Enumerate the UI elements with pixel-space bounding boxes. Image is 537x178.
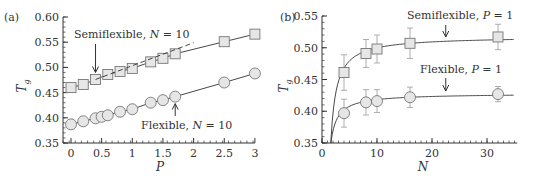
y-tick-label: 0.55 xyxy=(294,10,319,23)
x-tick-label: 1.5 xyxy=(154,147,172,160)
circle-marker xyxy=(339,108,350,119)
circle-marker xyxy=(361,97,372,108)
square-marker xyxy=(127,63,137,73)
y-tick-label: 0.50 xyxy=(294,42,319,55)
x-tick-label: 30 xyxy=(480,147,494,160)
circle-marker xyxy=(170,91,181,102)
y-tick-label: 0.55 xyxy=(35,36,60,49)
square-marker xyxy=(170,49,180,59)
x-tick-label: 2.5 xyxy=(216,147,234,160)
x-tick-label: 3 xyxy=(251,147,258,160)
square-marker xyxy=(250,29,260,39)
x-tick-label: 0 xyxy=(68,147,75,160)
x-tick-label: 0.5 xyxy=(93,147,111,160)
annotation-flexible-n10: Flexible, N = 10 xyxy=(141,119,232,132)
x-tick-label: 20 xyxy=(425,147,439,160)
annotation-flexible-p1: Flexible, P = 1 xyxy=(420,63,502,76)
x-tick-label: 1 xyxy=(129,147,136,160)
circle-marker xyxy=(66,119,77,130)
y-tick-label: 0.60 xyxy=(35,11,60,24)
square-marker xyxy=(372,44,382,54)
circle-marker xyxy=(127,104,138,115)
circle-marker xyxy=(78,116,89,127)
circle-marker xyxy=(157,95,168,106)
square-marker xyxy=(493,32,503,42)
square-marker xyxy=(103,69,113,79)
circle-marker xyxy=(493,89,504,100)
axes-frame xyxy=(322,16,517,143)
circle-marker xyxy=(115,106,126,117)
circle-marker xyxy=(145,97,156,108)
square-marker xyxy=(115,66,125,76)
svg-text:Tg: Tg xyxy=(15,79,31,92)
square-marker xyxy=(361,48,371,58)
circle-marker xyxy=(372,96,383,107)
y-tick-label: 0.40 xyxy=(35,112,60,125)
x-tick-label: 0 xyxy=(319,147,326,160)
square-marker xyxy=(339,68,349,78)
panel-a-x-axis-label: P xyxy=(155,160,165,174)
panel-a-label: (a) xyxy=(4,11,19,24)
circle-marker xyxy=(102,110,113,121)
panel-a-y-axis-label: Tg xyxy=(15,79,31,92)
y-tick-label: 0.45 xyxy=(294,74,319,87)
square-marker xyxy=(158,53,168,63)
square-marker xyxy=(78,80,88,90)
panel-b-y-axis-label: Tg xyxy=(277,79,293,92)
x-tick-label: 10 xyxy=(370,147,384,160)
circle-marker xyxy=(219,77,230,88)
y-tick-label: 0.40 xyxy=(294,105,319,118)
y-tick-label: 0.45 xyxy=(35,87,60,100)
circle-marker xyxy=(249,68,260,79)
panel-b-label: (b) xyxy=(280,11,296,24)
y-tick-label: 0.50 xyxy=(35,61,60,74)
fit-curve xyxy=(331,95,514,143)
y-tick-label: 0.35 xyxy=(294,137,319,150)
svg-text:Tg: Tg xyxy=(277,79,293,92)
annotation-semiflexible-p1: Semiflexible, P = 1 xyxy=(407,9,513,22)
x-tick-label: 2 xyxy=(190,147,197,160)
square-marker xyxy=(219,37,229,47)
figure: 0.350.400.450.500.550.6000.511.522.53 (a… xyxy=(0,0,537,178)
square-marker xyxy=(66,83,76,93)
panel-b-x-axis-label: N xyxy=(417,160,429,174)
circle-marker xyxy=(405,92,416,103)
fit-curve xyxy=(331,39,514,143)
y-tick-label: 0.35 xyxy=(35,137,60,150)
square-marker xyxy=(405,38,415,48)
annotation-semiflexible-n10: Semiflexible, N = 10 xyxy=(74,28,189,41)
panel-b-plot: 0.350.400.450.500.550102030 xyxy=(294,10,518,160)
